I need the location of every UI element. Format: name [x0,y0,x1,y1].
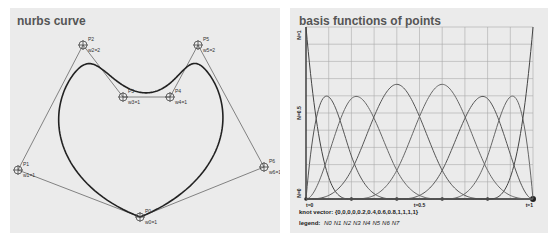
control-point-p2[interactable]: P2w2=2 [78,36,100,53]
control-point-p5[interactable]: P5w5=2 [193,36,215,53]
legend-item: N4 [363,220,371,226]
legend-item: N5 [372,220,380,226]
legend-item: N0 [324,220,332,226]
legend-item: N7 [392,220,400,226]
legend-item: N2 [343,220,351,226]
point-label: P0 [145,208,151,214]
weight-label: w0=1 [145,219,157,225]
weight-label: w3=1 [128,99,140,105]
weight-label: w5=2 [203,47,215,53]
knot-vector-value: {0,0,0,0,0.2,0.4,0.6,0.8,1,1,1,1} [335,209,418,215]
knot-vector: knot vector: {0,0,0,0,0.2,0.4,0.6,0.8,1,… [299,209,418,215]
legend-label: legend: [299,220,320,226]
control-polygon [18,45,264,217]
point-label: P6 [269,158,275,164]
point-label: P1 [23,161,29,167]
legend: legend: N0N1N2N3N4N5N6N7 [299,220,399,226]
x-label-right: t=1 [526,202,534,208]
point-label: P5 [203,36,209,42]
legend-item: N6 [382,220,390,226]
point-label: P2 [88,36,94,42]
control-point-p1[interactable]: P1w1=1 [13,161,35,178]
control-point-p4[interactable]: P4w4=1 [165,88,187,105]
x-label-mid: t=0.5 [414,202,426,208]
point-label: P3 [128,88,134,94]
point-label: P4 [175,88,181,94]
control-point-p6[interactable]: P6w6=1 [259,158,280,175]
legend-items: N0N1N2N3N4N5N6N7 [322,220,399,226]
weight-label: w6=1 [269,169,280,175]
nurbs-curve-canvas[interactable]: P0w0=1P1w1=1P2w2=2P3w3=1P4w4=1P5w5=2P6w6… [10,8,280,233]
basis-functions-chart: N=1N=0.5N=0t=0t=0.5t=1 [290,8,548,233]
x-label-left: t=0 [306,202,314,208]
y-label-bottom: N=0 [296,188,302,198]
y-label-mid: N=0.5 [296,106,302,120]
weight-label: w1=1 [23,172,35,178]
weight-label: w4=1 [175,99,187,105]
y-label-top: N=1 [296,30,302,40]
knot-vector-label: knot vector: [299,209,333,215]
weight-label: w2=2 [88,47,100,53]
control-point-p3[interactable]: P3w3=1 [118,88,140,105]
legend-item: N1 [334,220,342,226]
basis-functions-panel: basis functions of points N=1N=0.5N=0t=0… [290,8,548,233]
nurbs-curve-path [59,63,223,217]
legend-item: N3 [353,220,361,226]
nurbs-curve-panel: nurbs curve P0w0=1P1w1=1P2w2=2P3w3=1P4w4… [10,8,280,233]
